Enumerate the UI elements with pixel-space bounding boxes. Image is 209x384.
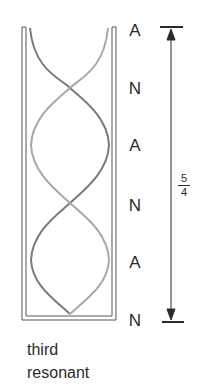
node-label-node-3: N: [127, 312, 143, 329]
standing-wave: [30, 28, 109, 314]
node-label-antinode-3: A: [127, 254, 143, 271]
tube: [22, 27, 116, 320]
caption-line-2: resonant: [27, 361, 89, 384]
node-label-antinode-1: A: [127, 22, 143, 39]
closed-tube-diagram: A N A N A N 5 4 third resonant: [0, 0, 209, 384]
caption: third resonant: [27, 338, 89, 384]
fraction-numerator: 5: [178, 173, 190, 184]
node-label-node-2: N: [127, 197, 143, 214]
length-fraction-label: 5 4: [178, 173, 190, 198]
node-label-node-1: N: [127, 80, 143, 97]
fraction-denominator: 4: [178, 187, 190, 198]
caption-line-1: third: [27, 338, 89, 361]
node-label-antinode-2: A: [127, 137, 143, 154]
